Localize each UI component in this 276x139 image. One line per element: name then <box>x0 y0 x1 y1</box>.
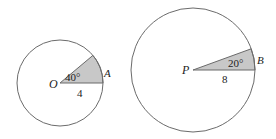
circle-p-figure: P 20° B 8 <box>131 8 264 132</box>
sector-p-shaded <box>193 49 255 70</box>
diagram-canvas: O 40° A 4 P 20° B 8 <box>0 0 276 139</box>
center-label-o: O <box>49 77 58 91</box>
radius-label-8: 8 <box>222 73 228 85</box>
point-label-b: B <box>257 54 264 66</box>
circle-o-figure: O 40° A 4 <box>17 40 111 126</box>
radius-label-4: 4 <box>77 87 83 99</box>
point-label-a: A <box>103 67 111 79</box>
angle-label-20: 20° <box>228 57 243 69</box>
angle-label-40: 40° <box>65 71 80 83</box>
center-label-p: P <box>181 63 190 77</box>
